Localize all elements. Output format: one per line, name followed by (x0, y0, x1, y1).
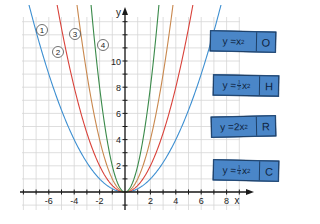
curve-label-number: 1 (40, 26, 45, 35)
fraction-denominator: 2 (238, 86, 241, 91)
curve-label-3: 3 (70, 29, 81, 40)
grid-lines (22, 17, 240, 210)
x-tick-label: 4 (173, 196, 178, 206)
y-tick-label: 2 (116, 161, 121, 171)
x-axis-arrow-icon (246, 189, 254, 195)
x-tick-label: 8 (224, 196, 229, 206)
solution-letter: H (260, 76, 278, 95)
formula-card-half-x2[interactable]: y = 12 x2 H (213, 74, 279, 96)
y-tick-label: 4 (116, 135, 121, 145)
x-tick-label: 2 (148, 196, 153, 206)
formula-exponent: 2 (244, 123, 247, 129)
formula-exponent: 2 (241, 38, 244, 44)
y-tick-label: 10 (111, 57, 121, 67)
fraction: 12 (237, 80, 241, 91)
formula-card-quarter-x2[interactable]: y = 14 x2 C (213, 159, 279, 181)
y-tick-label: 6 (116, 109, 121, 119)
y-tick-label: 8 (116, 83, 121, 93)
formula-prefix: y = (220, 121, 234, 132)
y-axis-label: y (116, 7, 121, 18)
curve-label-2: 2 (53, 47, 64, 58)
curve-label-4: 4 (98, 40, 109, 51)
curve-label-number: 4 (101, 41, 106, 50)
curve-label-1: 1 (37, 25, 48, 36)
solution-letter: R (257, 116, 275, 135)
x-tick-label: 6 (199, 196, 204, 206)
formula-text: y = 14 x2 (214, 160, 260, 180)
x-tick-label: -4 (70, 196, 78, 206)
x-axis-label: x (235, 195, 240, 206)
solution-letter: C (260, 161, 278, 180)
x-tick-label: -2 (96, 196, 104, 206)
curve-label-number: 3 (73, 30, 78, 39)
fraction-denominator: 4 (238, 171, 241, 176)
formula-exponent: 2 (247, 83, 250, 89)
curve-label-number: 2 (56, 48, 61, 57)
formula-prefix: y = (222, 36, 236, 47)
formula-prefix: y = (223, 80, 237, 91)
y-axis-arrow-icon (122, 7, 128, 15)
formula-card-2x2[interactable]: y = 2 x2 R (211, 115, 276, 137)
formula-text: y = 2 x2 (212, 117, 257, 137)
formula-card-x2[interactable]: y = x2 O (210, 30, 276, 52)
fraction: 14 (237, 165, 241, 176)
x-tick-label: -6 (45, 196, 53, 206)
formula-text: y = 12 x2 (214, 75, 260, 95)
formula-prefix: y = (223, 165, 237, 176)
formula-exponent: 2 (247, 168, 250, 174)
curve-number-labels: 1234 (37, 25, 109, 58)
solution-letter: O (257, 32, 275, 51)
formula-text: y = x2 (211, 31, 257, 51)
